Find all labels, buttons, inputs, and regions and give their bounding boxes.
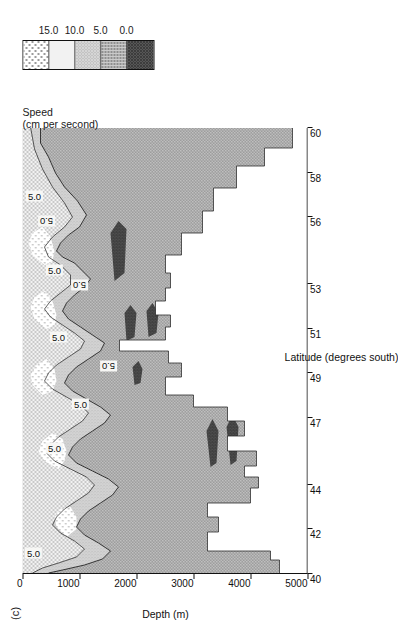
y-tick-label-4000: 4000 — [228, 578, 250, 589]
x-tick-label-42: 42 — [309, 529, 320, 540]
legend-label-0-0: 0.0 — [119, 25, 133, 36]
x-tick-label-51: 51 — [309, 329, 320, 340]
legend-swatch-above-15 — [23, 41, 49, 69]
panel-label: (c) — [8, 607, 20, 620]
legend-swatch-0-5 — [101, 41, 127, 69]
contour-label-8: 5.0 — [25, 191, 42, 202]
x-tick-label-40: 40 — [309, 574, 320, 585]
x-axis-title: Latitude (degrees south) — [284, 351, 398, 363]
contour-label-1: 5.0 — [45, 443, 62, 454]
legend-title: Speed (cm per second) — [22, 106, 98, 130]
contour-section-svg — [22, 128, 306, 573]
legend-swatch-10-15 — [49, 41, 75, 69]
legend-title-line2: (cm per second) — [22, 118, 98, 130]
legend-label-5-0: 5.0 — [93, 25, 107, 36]
y-tick-label-1000: 1000 — [57, 578, 79, 589]
x-tick-label-58: 58 — [309, 173, 320, 184]
contour-label-6: 5.0 — [45, 264, 62, 275]
legend-swatch-5-10 — [75, 41, 101, 69]
contour-label-3: 5.0 — [99, 360, 116, 371]
contour-label-0: 5.0 — [24, 547, 41, 558]
contour-label-7: 5.0 — [37, 215, 54, 226]
legend-swatch-below-0 — [127, 41, 153, 69]
x-tick-label-60: 60 — [309, 128, 320, 139]
contour-label-5: 5.0 — [70, 280, 87, 291]
plot-clip — [22, 128, 306, 573]
y-axis-title: Depth (m) — [141, 608, 188, 620]
y-tick-label-3000: 3000 — [171, 578, 193, 589]
legend-swatches — [22, 40, 154, 70]
legend-value-labels: 15.010.05.00.0 — [22, 0, 152, 36]
legend-label-15-0: 15.0 — [38, 25, 57, 36]
contour-label-4: 5.0 — [50, 331, 67, 342]
plot-area: 5.05.05.05.05.05.05.05.05.0 — [22, 128, 307, 574]
x-tick-label-47: 47 — [309, 418, 320, 429]
legend-title-line1: Speed — [22, 106, 98, 118]
x-tick-label-56: 56 — [309, 217, 320, 228]
contour-label-2: 5.0 — [72, 398, 89, 409]
y-tick-label-2000: 2000 — [114, 578, 136, 589]
x-tick-label-49: 49 — [309, 373, 320, 384]
y-tick-label-5000: 5000 — [285, 578, 307, 589]
legend-label-10-0: 10.0 — [64, 25, 83, 36]
x-tick-label-44: 44 — [309, 485, 320, 496]
y-tick-label-0: 0 — [16, 578, 22, 589]
x-tick-label-53: 53 — [309, 284, 320, 295]
